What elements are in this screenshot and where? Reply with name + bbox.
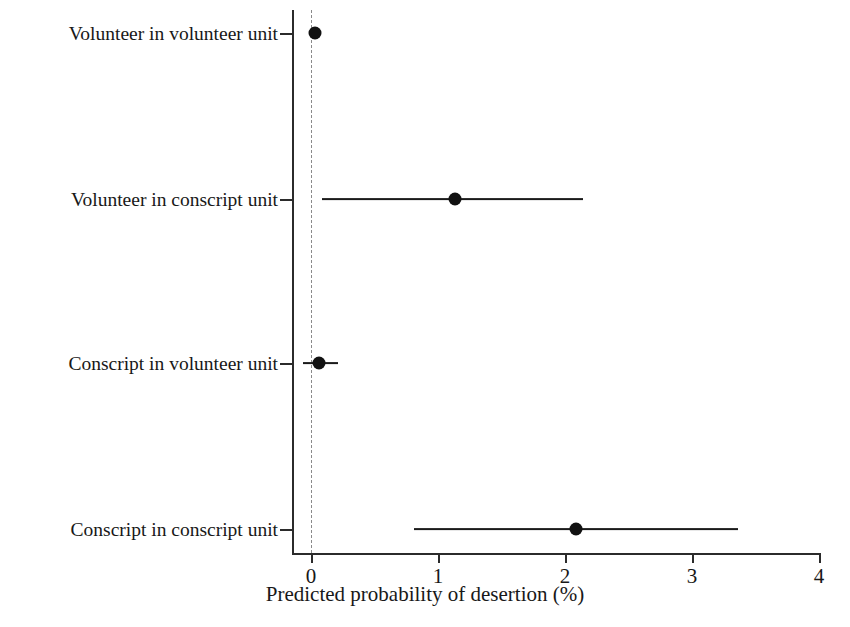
x-axis-tick-2 — [565, 553, 567, 563]
y-axis-line — [292, 10, 294, 553]
x-axis-tick-1 — [438, 553, 440, 563]
x-axis-tick-3 — [692, 553, 694, 563]
category-label-2: Conscript in volunteer unit — [0, 354, 278, 374]
y-axis-tick-1 — [280, 199, 292, 201]
estimate-point-marker — [570, 523, 583, 536]
estimate-point-marker — [308, 27, 321, 40]
x-axis-tick-4 — [819, 553, 821, 563]
estimate-point-marker — [312, 357, 325, 370]
y-axis-tick-3 — [280, 529, 292, 531]
category-label-1: Volunteer in conscript unit — [0, 190, 278, 210]
category-label-3: Conscript in conscript unit — [0, 520, 278, 540]
estimate-point-marker — [448, 193, 461, 206]
x-axis-title: Predicted probability of desertion (%) — [0, 584, 850, 605]
forest-plot-figure: Volunteer in volunteer unit Volunteer in… — [0, 0, 850, 627]
plot-area: 0 1 2 3 4 — [292, 10, 819, 553]
x-axis-tick-0 — [311, 553, 313, 563]
x-axis-line — [292, 553, 819, 555]
category-label-0: Volunteer in volunteer unit — [0, 24, 278, 44]
y-axis-tick-0 — [280, 33, 292, 35]
y-axis-tick-2 — [280, 363, 292, 365]
zero-reference-line — [311, 10, 312, 553]
